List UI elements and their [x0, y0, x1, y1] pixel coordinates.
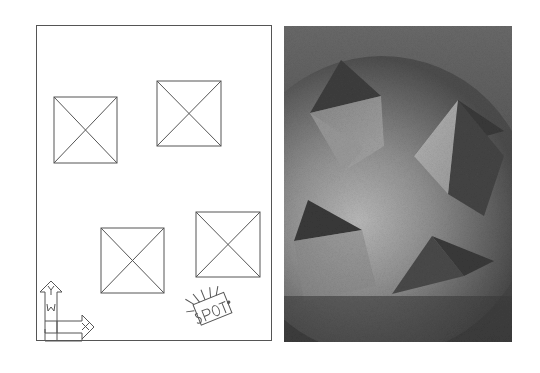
- spotlight-icon: [181, 281, 234, 328]
- pyramid-4-wireframe: [196, 212, 260, 277]
- render-view-panel: [284, 26, 512, 342]
- plan-view-drawing: [37, 26, 273, 342]
- ucs-w-label: W: [0, 0, 1, 1]
- pyramid-1-wireframe: [54, 97, 117, 163]
- pyramid-2-wireframe: [157, 81, 221, 146]
- render-view-description: Rendered perspective of the pyramids lit…: [0, 0, 1, 1]
- spotlight-label: SPOT: [0, 0, 1, 1]
- ucs-icon: [40, 281, 94, 341]
- ucs-y-label: Y: [0, 0, 1, 1]
- ucs-x-label: X: [0, 0, 1, 1]
- plan-view-panel: [36, 25, 272, 341]
- plan-view-description: Top-down wireframe plan of four pyramids…: [0, 0, 1, 1]
- rendered-scene: [284, 26, 512, 342]
- pyramid-3-wireframe: [101, 228, 164, 293]
